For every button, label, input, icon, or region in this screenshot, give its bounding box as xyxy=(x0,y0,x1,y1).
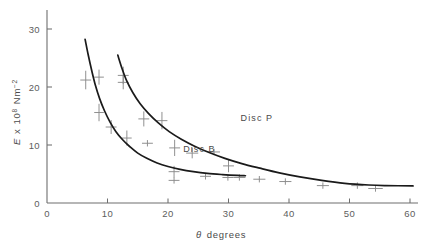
series-label-disc-p: Disc P xyxy=(241,113,274,123)
data-point-markers xyxy=(80,67,383,192)
markers-disc-p xyxy=(118,67,383,192)
scatter-line-chart: 0102030405060 0102030 Disc BDisc P θdegr… xyxy=(0,0,435,249)
x-tick-label-30: 30 xyxy=(223,208,234,219)
y-tick-label-10: 10 xyxy=(29,140,40,151)
x-tick-label-10: 10 xyxy=(102,208,113,219)
figure-container: 0102030405060 0102030 Disc BDisc P θdegr… xyxy=(0,0,435,249)
series-label-disc-b: Disc B xyxy=(183,144,216,154)
x-tick-label-60: 60 xyxy=(404,208,415,219)
x-axis-title: θdegrees xyxy=(196,229,246,240)
y-tick-label-0: 0 xyxy=(34,198,40,209)
y-tick-label-20: 20 xyxy=(29,82,40,93)
y-tick-label-30: 30 xyxy=(29,24,40,35)
x-tick-label-0: 0 xyxy=(44,208,50,219)
y-axis-tick-labels: 0102030 xyxy=(29,24,40,209)
y-axis-title: Ex108Nm−2 xyxy=(11,79,23,145)
x-axis-ticks xyxy=(108,199,411,204)
x-tick-label-40: 40 xyxy=(283,208,294,219)
x-axis-tick-labels: 0102030405060 xyxy=(44,208,416,219)
svg-text:Ex108Nm−2: Ex108Nm−2 xyxy=(11,79,23,145)
x-tick-label-50: 50 xyxy=(344,208,355,219)
svg-text:θdegrees: θdegrees xyxy=(196,229,246,240)
series-annotations: Disc BDisc P xyxy=(183,113,273,154)
x-tick-label-20: 20 xyxy=(162,208,173,219)
curve-disc-b xyxy=(85,39,245,175)
y-axis-ticks xyxy=(47,29,52,145)
